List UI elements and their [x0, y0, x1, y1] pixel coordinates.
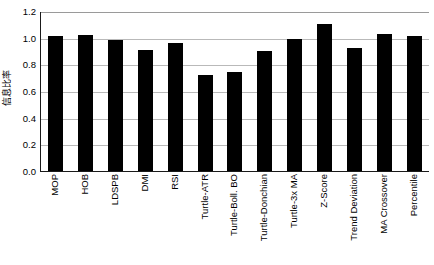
bar-chart: 信息比率 1.21.00.80.60.40.20.0 MOPHOBLDSPBDM… — [0, 0, 434, 265]
x-axis-tick-label: LDSPB — [110, 174, 120, 205]
bar-slot — [280, 12, 310, 171]
y-axis-tick-label: 0.4 — [23, 114, 36, 124]
x-axis-tick-label: Turtle-3x MA — [289, 174, 299, 228]
x-axis-tick-label: Turtle-ATR — [200, 174, 210, 219]
bar-slot — [399, 12, 429, 171]
x-axis-tick-labels: MOPHOBLDSPBDMIRSITurtle-ATRTurtle-Boll. … — [40, 174, 429, 262]
bar — [78, 35, 93, 171]
bar-slot — [250, 12, 280, 171]
x-label-slot: HOB — [70, 174, 100, 262]
bar — [198, 75, 213, 171]
y-axis-tick-label: 0.6 — [23, 87, 36, 97]
plot-area — [40, 12, 429, 172]
bar-slot — [310, 12, 340, 171]
x-label-slot: Turtle-3x MA — [279, 174, 309, 262]
x-axis-tick-label: HOB — [80, 174, 90, 195]
y-axis-tick-label: 0.2 — [23, 141, 36, 151]
bar — [317, 24, 332, 171]
bar-slot — [71, 12, 101, 171]
bar — [48, 36, 63, 171]
x-axis-tick-label: Z-Score — [319, 174, 329, 208]
x-axis-tick-label: Turtle-Boll. BO — [229, 174, 239, 236]
y-axis-tick-label: 0.0 — [23, 167, 36, 177]
y-axis-tick-label: 1.2 — [23, 7, 36, 17]
x-axis-tick-label: DMI — [140, 174, 150, 191]
bar — [407, 36, 422, 171]
bar-slot — [41, 12, 71, 171]
bar — [108, 40, 123, 171]
bar — [347, 48, 362, 171]
y-axis-tick-label: 1.0 — [23, 34, 36, 44]
bar — [257, 51, 272, 171]
bar-slot — [131, 12, 161, 171]
x-label-slot: MOP — [40, 174, 70, 262]
bar — [138, 50, 153, 171]
x-axis-tick-label: RSI — [170, 174, 180, 190]
bar — [377, 34, 392, 171]
x-label-slot: Trend Deviation — [339, 174, 369, 262]
bar-slot — [369, 12, 399, 171]
x-label-slot: DMI — [130, 174, 160, 262]
x-label-slot: Z-Score — [309, 174, 339, 262]
bar-slot — [339, 12, 369, 171]
x-label-slot: Turtle-Donchian — [249, 174, 279, 262]
bar — [168, 43, 183, 171]
x-axis-tick-label: MOP — [50, 174, 60, 196]
x-axis-tick-label: Trend Deviation — [349, 174, 359, 241]
x-axis-tick-label: MA Crossover — [379, 174, 389, 234]
bar-slot — [220, 12, 250, 171]
bar-slot — [190, 12, 220, 171]
bar-slot — [101, 12, 131, 171]
x-label-slot: RSI — [160, 174, 190, 262]
bar — [287, 39, 302, 171]
bar — [227, 72, 242, 171]
bar-series — [41, 12, 429, 171]
x-axis-tick-label: Turtle-Donchian — [259, 174, 269, 241]
x-label-slot: Percentile — [399, 174, 429, 262]
x-label-slot: Turtle-ATR — [190, 174, 220, 262]
x-label-slot: Turtle-Boll. BO — [220, 174, 250, 262]
x-label-slot: LDSPB — [100, 174, 130, 262]
bar-slot — [160, 12, 190, 171]
x-axis-tick-label: Percentile — [409, 174, 419, 216]
y-axis-tick-label: 0.8 — [23, 61, 36, 71]
x-label-slot: MA Crossover — [369, 174, 399, 262]
y-axis-tick-labels: 1.21.00.80.60.40.20.0 — [14, 12, 38, 172]
